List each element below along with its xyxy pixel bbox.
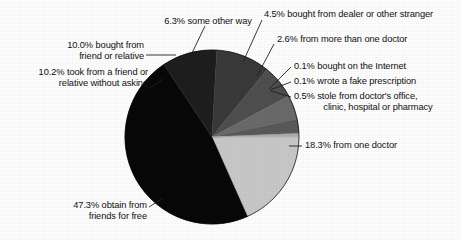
label-fake-prescription: 0.1% wrote a fake prescription	[294, 76, 462, 87]
label-took-without-asking-line2: relative without asking	[0, 78, 148, 89]
label-stole-line1: 0.5% stole from doctor's office,	[294, 91, 462, 102]
label-bought-friend-line2: friend or relative	[0, 51, 144, 62]
label-one-doctor: 18.3% from one doctor	[305, 140, 461, 151]
pie-slices	[125, 50, 299, 224]
label-dealer: 4.5% bought from dealer or other strange…	[264, 9, 462, 20]
label-internet: 0.1% bought on the Internet	[294, 61, 462, 72]
label-more-than-one-doctor: 2.6% from more than one doctor	[277, 34, 462, 45]
label-stole-line2: clinic, hospital or pharmacy	[294, 102, 462, 113]
label-took-without-asking-line1: 10.2% took from a friend or	[0, 67, 148, 78]
chart-canvas: 6.3% some other way 10.0% bought from fr…	[0, 0, 462, 240]
label-friends-free-line2: friends for free	[0, 211, 147, 222]
label-friends-free-line1: 47.3% obtain from	[0, 200, 147, 211]
leader-some-other-way	[192, 26, 205, 53]
label-bought-friend-line1: 10.0% bought from	[0, 40, 144, 51]
